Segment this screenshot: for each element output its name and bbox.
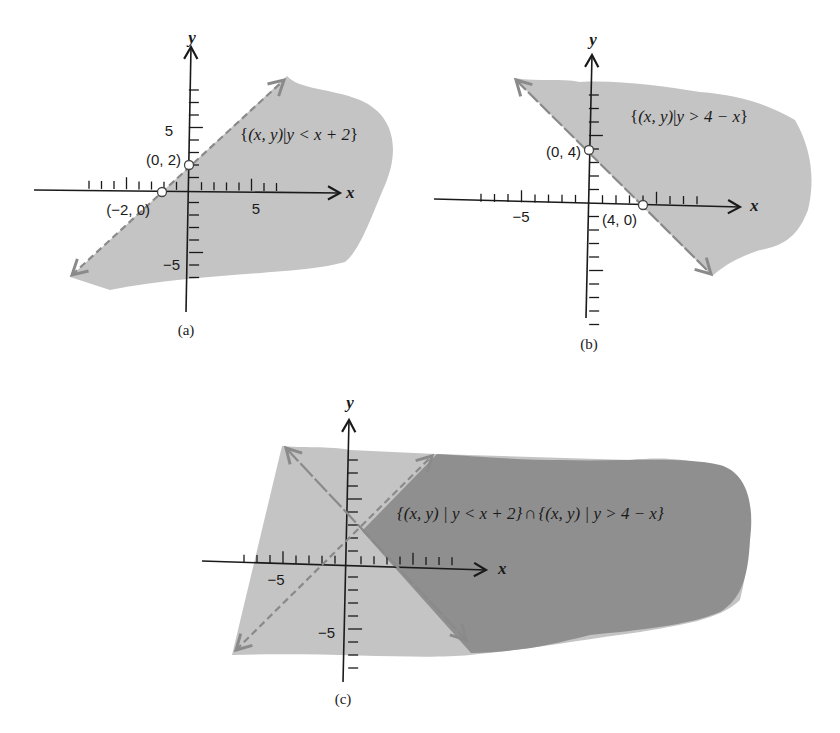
y-axis-label: y <box>344 393 354 412</box>
panel-b: y x −5 (0, 4) (4, 0) {(x, y)|y > 4 − x} … <box>434 30 812 353</box>
tick-label-y-neg5: −5 <box>318 624 335 641</box>
open-point-4-0 <box>639 201 648 210</box>
set-label-a: {(x, y)|y < x + 2} <box>240 125 358 144</box>
panel-c: y x −5 −5 {(x, y) | y < x + 2}∩{(x, y) |… <box>202 393 751 708</box>
tick-label-y-5: 5 <box>165 122 173 139</box>
panel-a: y x 5 5 −5 (0, 2) (−2, 0) {(x, y)|y < x … <box>34 28 393 339</box>
region-y-less-than-x-plus-2 <box>70 76 393 290</box>
x-axis-label: x <box>497 559 507 578</box>
set-label-b: {(x, y)|y > 4 − x} <box>630 107 748 126</box>
point-label-0-4: (0, 4) <box>546 143 581 160</box>
tick-label-x-5: 5 <box>252 200 260 217</box>
tick-label-x-neg5: −5 <box>512 208 529 225</box>
point-label-4-0: (4, 0) <box>602 211 637 228</box>
inequality-graphs-figure: y x 5 5 −5 (0, 2) (−2, 0) {(x, y)|y < x … <box>0 0 840 733</box>
open-point-neg2-0 <box>158 188 167 197</box>
caption-c: (c) <box>335 691 352 708</box>
y-axis-label: y <box>587 30 597 49</box>
caption-b: (b) <box>580 336 598 353</box>
x-axis-label: x <box>749 196 759 215</box>
y-axis-label: y <box>186 28 196 47</box>
x-axis-label: x <box>345 183 355 202</box>
set-label-c: {(x, y) | y < x + 2}∩{(x, y) | y > 4 − x… <box>397 504 664 523</box>
tick-label-y-neg5: −5 <box>163 256 180 273</box>
open-point-0-2 <box>185 161 194 170</box>
caption-a: (a) <box>178 322 195 339</box>
point-label-neg2-0: (−2, 0) <box>106 201 150 218</box>
open-point-0-4 <box>585 146 594 155</box>
tick-label-x-neg5: −5 <box>267 571 284 588</box>
point-label-0-2: (0, 2) <box>146 151 181 168</box>
